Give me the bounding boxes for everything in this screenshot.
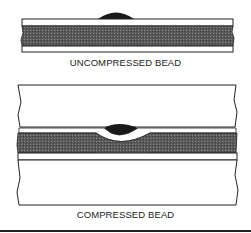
compressed-assembly [17, 85, 238, 205]
lower-block [17, 160, 238, 205]
bottom-rule [0, 230, 251, 232]
bottom-lower-strip [18, 153, 237, 160]
compressed-bead-label: COMPRESSED BEAD [0, 209, 251, 220]
top-lower-strip [22, 46, 233, 52]
uncompressed-bead [98, 13, 134, 20]
bead-diagram [0, 0, 251, 233]
uncompressed-assembly [21, 13, 234, 53]
uncompressed-bead-label: UNCOMPRESSED BEAD [0, 57, 251, 68]
upper-block [18, 85, 237, 127]
top-core-layer [21, 26, 234, 46]
top-upper-strip [22, 19, 233, 26]
